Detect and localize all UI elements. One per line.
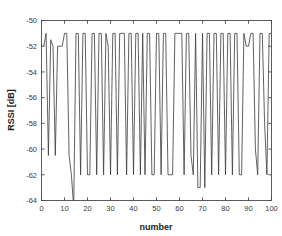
- x-tick-label: 30: [106, 204, 114, 213]
- x-tick-labels: 0102030405060708090100: [39, 204, 277, 213]
- x-tick-label: 0: [39, 204, 43, 213]
- x-tick-label: 100: [265, 204, 278, 213]
- x-tick-label: 90: [244, 204, 252, 213]
- y-tick-label: -52: [26, 42, 37, 51]
- x-tick-label: 20: [83, 204, 91, 213]
- x-tick-label: 50: [152, 204, 160, 213]
- x-tick-label: 60: [175, 204, 183, 213]
- y-tick-label: -62: [26, 171, 37, 180]
- y-tick-label: -56: [26, 93, 37, 102]
- y-tick-label: -54: [26, 68, 37, 77]
- chart-figure: 0102030405060708090100 -50-52-54-56-58-6…: [0, 0, 282, 236]
- x-tick-label: 70: [198, 204, 206, 213]
- x-tick-label: 40: [129, 204, 137, 213]
- x-axis-title: number: [139, 222, 173, 232]
- x-tick-label: 80: [221, 204, 229, 213]
- y-axis-title: RSSI [dB]: [6, 89, 16, 131]
- y-tick-label: -50: [26, 16, 37, 25]
- x-tick-label: 10: [60, 204, 68, 213]
- y-tick-labels: -50-52-54-56-58-60-62-64: [26, 16, 37, 205]
- y-tick-label: -58: [26, 119, 37, 128]
- rssi-line-chart: 0102030405060708090100 -50-52-54-56-58-6…: [0, 0, 282, 236]
- y-tick-label: -60: [26, 145, 37, 154]
- y-tick-label: -64: [26, 196, 37, 205]
